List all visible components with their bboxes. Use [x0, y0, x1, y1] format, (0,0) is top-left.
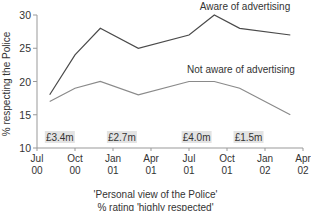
x-axis: Jul00Oct00Jan01Apr01Jul01Oct01Jan02Apr02	[31, 148, 311, 176]
x-tick-label-year: 01	[107, 165, 119, 176]
x-tick-label-month: Apr	[143, 153, 159, 164]
x-tick-label-year: 00	[69, 165, 81, 176]
x-tick-label-month: Jul	[31, 153, 44, 164]
x-tick-label-month: Oct	[219, 153, 235, 164]
y-tick-label: 30	[19, 9, 31, 21]
spend-label: £1.5m	[235, 132, 263, 143]
x-tick-label-year: 01	[221, 165, 233, 176]
not-aware-series-line	[50, 82, 291, 115]
series-lines: Aware of advertisingNot aware of adverti…	[50, 1, 295, 115]
x-tick-label-month: Oct	[67, 153, 83, 164]
y-axis-label: % respecting the Police	[1, 31, 12, 136]
aware-series-label: Aware of advertising	[200, 1, 290, 12]
chart-title: 'Personal view of the Police'	[0, 188, 311, 201]
y-tick-label: 15	[19, 109, 31, 121]
line-chart: 1015202530 Jul00Oct00Jan01Apr01Jul01Oct0…	[0, 0, 311, 211]
x-tick-label-year: 01	[145, 165, 157, 176]
x-tick-label-year: 02	[297, 165, 309, 176]
x-tick-label-year: 02	[259, 165, 271, 176]
x-tick-label-month: Jan	[105, 153, 121, 164]
y-tick-label: 10	[19, 142, 31, 154]
x-tick-label-month: Apr	[295, 153, 311, 164]
not-aware-series-label: Not aware of advertising	[187, 64, 295, 75]
x-tick-label-year: 01	[183, 165, 195, 176]
x-tick-label-month: Jul	[183, 153, 196, 164]
aware-series-line	[50, 15, 291, 95]
spend-label: £4.0m	[183, 132, 211, 143]
spend-label: £3.4m	[46, 132, 74, 143]
chart-subtitle: % rating 'highly respected'	[0, 201, 311, 211]
y-tick-label: 20	[19, 76, 31, 88]
x-tick-label-year: 00	[31, 165, 43, 176]
y-axis: 1015202530	[19, 9, 37, 154]
spend-label: £2.7m	[108, 132, 136, 143]
x-tick-label-month: Jan	[257, 153, 273, 164]
spend-annotations: £3.4m£2.7m£4.0m£1.5m	[45, 131, 264, 143]
y-tick-label: 25	[19, 42, 31, 54]
